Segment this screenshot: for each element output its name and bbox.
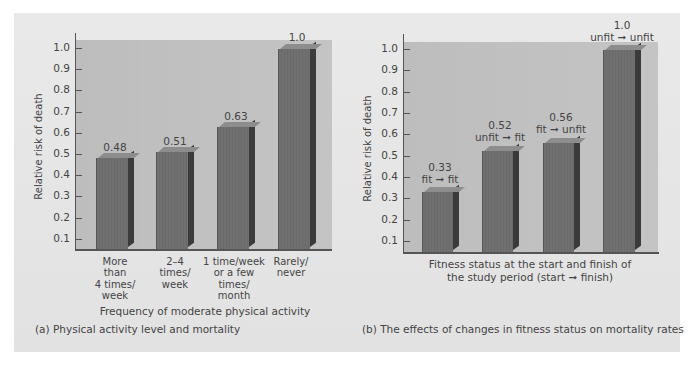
y-tick <box>403 241 410 242</box>
chart-b-bar-unfit-fit <box>482 151 513 252</box>
y-tick <box>403 49 410 50</box>
chart-a-value-label: 0.63 <box>196 110 276 122</box>
y-tick-label: 0.6 <box>42 126 70 138</box>
y-tick <box>75 133 82 134</box>
chart-b-x-axis-title: Fitness status at the start and finish o… <box>405 258 655 284</box>
y-tick <box>75 196 82 197</box>
chart-b-bar-fit-unfit <box>543 143 574 252</box>
y-tick-label: 0.7 <box>370 106 398 118</box>
chart-a-value-label: 1.0 <box>257 31 337 43</box>
y-tick <box>403 70 410 71</box>
y-tick <box>75 175 82 176</box>
y-tick-label: 0.6 <box>370 127 398 139</box>
y-tick-label: 0.2 <box>370 213 398 225</box>
y-tick-label: 0.8 <box>42 83 70 95</box>
chart-b-value-label: 0.33 fit ➞ fit <box>400 161 480 185</box>
y-tick-label: 1.0 <box>42 41 70 53</box>
y-tick <box>75 112 82 113</box>
y-tick-label: 0.3 <box>370 191 398 203</box>
y-tick-label: 0.1 <box>370 234 398 246</box>
y-tick <box>75 239 82 240</box>
chart-a-bar-1-per-week <box>217 127 249 249</box>
y-tick-label: 1.0 <box>370 42 398 54</box>
y-tick-label: 0.8 <box>370 85 398 97</box>
y-tick <box>75 48 82 49</box>
y-tick-label: 0.9 <box>370 63 398 75</box>
y-tick <box>403 92 410 93</box>
chart-a-x-axis-title: Frequency of moderate physical activity <box>90 305 320 318</box>
chart-a-bar-rarely-never <box>278 49 310 249</box>
y-tick <box>75 90 82 91</box>
y-tick <box>75 218 82 219</box>
y-tick-label: 0.7 <box>42 105 70 117</box>
y-tick-label: 0.5 <box>42 147 70 159</box>
y-tick <box>403 113 410 114</box>
y-tick-label: 0.3 <box>42 189 70 201</box>
chart-b-x-axis <box>403 252 659 254</box>
chart-b-caption: (b) The effects of changes in fitness st… <box>362 323 684 335</box>
y-tick-label: 0.4 <box>370 170 398 182</box>
chart-b-value-label: 1.0 unfit ➞ unfit <box>582 19 662 43</box>
y-tick-label: 0.5 <box>370 149 398 161</box>
chart-b-value-label: 0.56 fit ➞ unfit <box>521 111 601 135</box>
chart-a-category-label: Rarely/ never <box>256 256 326 279</box>
y-tick-label: 0.9 <box>42 62 70 74</box>
y-tick <box>403 156 410 157</box>
chart-a-bar-more-than-4 <box>96 158 128 249</box>
y-tick <box>403 134 410 135</box>
y-tick <box>75 154 82 155</box>
y-tick <box>75 69 82 70</box>
chart-b-bar-unfit-unfit <box>603 50 635 252</box>
y-tick <box>403 198 410 199</box>
chart-b-bar-fit-fit <box>422 192 453 252</box>
y-tick <box>403 220 410 221</box>
y-tick-label: 0.2 <box>42 211 70 223</box>
chart-a-value-label: 0.51 <box>135 135 215 147</box>
chart-a-x-axis <box>75 249 332 251</box>
chart-a-bar-2-4 <box>156 152 188 249</box>
y-tick-label: 0.1 <box>42 232 70 244</box>
chart-a-caption: (a) Physical activity level and mortalit… <box>35 323 240 335</box>
y-tick-label: 0.4 <box>42 168 70 180</box>
